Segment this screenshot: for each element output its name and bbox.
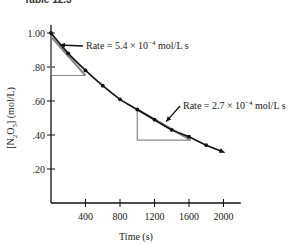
rate-label: Rate = 2.7 × 10−4 mol/L s	[183, 99, 286, 111]
curve-arrowhead-icon	[219, 148, 225, 153]
y-tick-label: .40	[33, 130, 46, 141]
x-tick-label: 2000	[214, 211, 234, 222]
data-point	[66, 52, 70, 56]
rate-annotations: Rate = 5.4 × 10−4 mol/L sRate = 2.7 × 10…	[60, 39, 286, 122]
y-tick-label: 1.00	[28, 28, 46, 39]
data-point	[49, 31, 53, 35]
data-point	[153, 118, 157, 122]
x-tick-label: 1200	[145, 211, 165, 222]
data-point	[135, 108, 139, 112]
x-tick-label: 400	[78, 211, 93, 222]
x-axis-title: Time (s)	[119, 231, 153, 243]
tangent-line	[51, 36, 86, 75]
axes: .20.40.60.801.00400800120016002000	[28, 25, 241, 222]
y-axis-title: [N2O5] (mol/L)	[5, 87, 19, 149]
rate-label: Rate = 5.4 × 10−4 mol/L s	[86, 39, 189, 51]
x-tick-label: 800	[113, 211, 128, 222]
x-tick-label: 1600	[179, 211, 199, 222]
concentration-time-chart: .20.40.60.801.00400800120016002000 Rate …	[0, 0, 301, 244]
data-point	[84, 69, 88, 73]
data-point	[118, 97, 122, 101]
y-tick-label: .60	[33, 96, 46, 107]
data-point	[204, 143, 208, 147]
y-tick-label: .20	[33, 164, 46, 175]
data-point	[187, 135, 191, 139]
y-tick-label: .80	[33, 62, 46, 73]
tangent-triangles	[51, 36, 191, 140]
data-point	[101, 84, 105, 88]
data-point	[170, 128, 174, 132]
